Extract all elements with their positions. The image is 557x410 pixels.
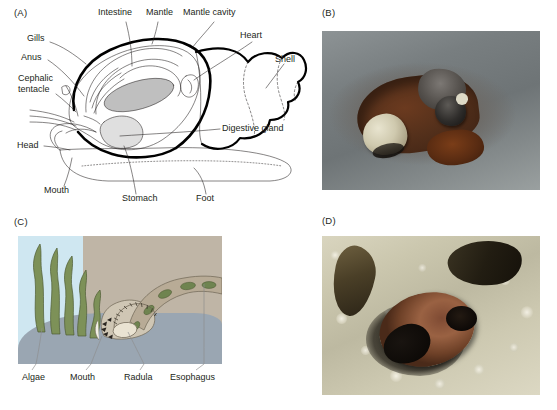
panel-c-leader-lines [0,208,312,410]
label-mantle: Mantle [146,7,173,18]
label-stomach: Stomach [122,193,158,204]
panel-d-letter: (D) [322,215,336,226]
label-foot: Foot [196,193,214,204]
shell-aperture [446,306,477,331]
label-mouth: Mouth [44,185,69,196]
label-radula: Radula [124,372,153,383]
label-mantle-cavity: Mantle cavity [183,7,236,18]
panel-a-letter: (A) [14,7,27,18]
snail-aperture-photo [322,236,540,395]
label-esophagus: Esophagus [170,372,215,383]
snail-anatomy-drawing [0,0,312,208]
panel-b-letter: (B) [322,7,335,18]
figure-panel-grid: (A) [0,0,557,410]
label-cephalic-tentacle-line2: tentacle [18,84,50,95]
label-intestine: Intestine [98,7,132,18]
label-anus: Anus [21,52,42,63]
panel-c-radula-illustration: (C) [0,208,312,410]
snail-shell-dark [435,96,466,126]
label-mouth-c: Mouth [70,372,95,383]
snails-on-rock-photo [322,31,540,190]
panel-b-photograph: (B) [312,0,557,205]
label-digestive-gland: Digestive gland [222,123,284,134]
panel-d-photograph: (D) [312,205,557,410]
label-cephalic-tentacle: Cephalic [18,73,53,84]
label-head: Head [17,140,39,151]
label-heart: Heart [240,30,262,41]
label-gills: Gills [27,33,45,44]
label-shell: Shell [275,54,295,65]
panel-a-anatomy-diagram: (A) [0,0,312,208]
label-algae: Algae [22,372,45,383]
